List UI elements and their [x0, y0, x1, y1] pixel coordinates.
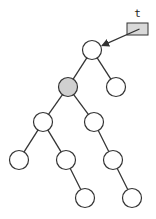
tree-node-highlighted — [59, 78, 78, 97]
tree-node — [123, 189, 142, 208]
tree-diagram: t — [0, 0, 156, 219]
tree-node — [34, 113, 53, 132]
tree-node — [107, 78, 126, 97]
tree-edge — [73, 58, 87, 79]
tree-edge — [49, 95, 63, 115]
tree-edge — [48, 130, 61, 152]
tree-node — [104, 151, 123, 170]
tree-node — [85, 113, 104, 132]
tree-node — [76, 189, 95, 208]
tree-edge — [24, 130, 38, 152]
tree-edge — [97, 58, 111, 79]
pointer-t: t — [102, 7, 148, 46]
tree-node — [83, 41, 102, 60]
pointer-label: t — [134, 7, 141, 20]
tree-nodes — [10, 41, 142, 208]
pointer-arrow — [102, 29, 139, 46]
tree-node — [57, 151, 76, 170]
tree-edge — [74, 95, 89, 115]
tree-edge — [70, 168, 81, 189]
tree-node — [10, 151, 29, 170]
tree-edge — [117, 168, 128, 189]
tree-edge — [98, 130, 109, 151]
